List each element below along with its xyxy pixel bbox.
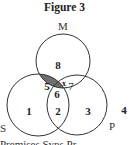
venn-diagram: M S P 8 5 6 x 7 1 2 3 4 [0, 0, 129, 145]
region-s-p: 2 [55, 105, 61, 117]
label-p: P [109, 120, 115, 132]
region-m-s: 5 [44, 80, 50, 92]
region-outside: 4 [121, 104, 127, 116]
label-s: S [0, 122, 6, 134]
label-m: M [58, 20, 68, 32]
region-m-p: 7 [68, 80, 74, 92]
region-m-s-p: 6 [54, 88, 60, 100]
region-s-only: 1 [26, 105, 32, 117]
bottom-caption-cut: Premises Syns Pr [0, 138, 129, 145]
region-m-only: 8 [55, 59, 61, 71]
region-m-p-mark: x [62, 79, 66, 88]
region-p-only: 3 [85, 105, 91, 117]
